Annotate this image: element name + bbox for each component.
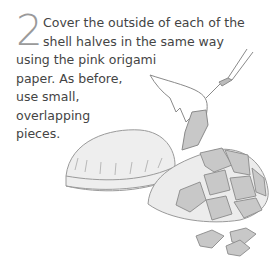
loose-paper-pieces <box>196 228 256 256</box>
instruction-line: paper. As before, <box>16 70 266 89</box>
step-number: 2 <box>16 10 43 52</box>
instruction-line: shell halves in the same way <box>16 33 266 52</box>
instruction-line: pieces. <box>16 125 266 144</box>
instruction-line: Cover the outside of each of the <box>16 14 266 33</box>
instruction-line: using the pink origami <box>16 51 266 70</box>
instruction-line: overlapping <box>16 107 266 126</box>
instruction-line: use small, <box>16 88 266 107</box>
step-instructions: 2 Cover the outside of each of the shell… <box>16 14 266 144</box>
